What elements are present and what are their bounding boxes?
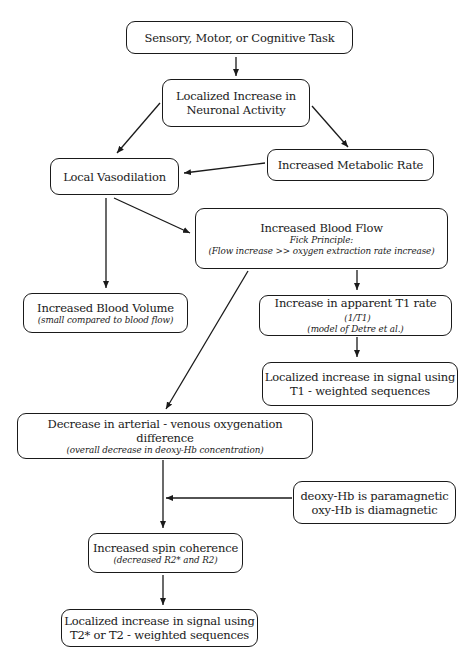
- node-spin-label: Increased spin coherence: [93, 541, 238, 555]
- node-bloodflow-sub2: (Flow increase >> oxygen extraction rate…: [208, 246, 434, 257]
- node-magnetic-line2: oxy-Hb is diamagnetic: [312, 503, 438, 517]
- node-neuronal-activity: Localized Increase in Neuronal Activity: [162, 79, 310, 127]
- node-task-label: Sensory, Motor, or Cognitive Task: [145, 31, 335, 45]
- node-bloodvolume-label: Increased Blood Volume: [37, 301, 174, 315]
- node-blood-flow: Increased Blood Flow Fick Principle: (Fl…: [195, 208, 448, 269]
- node-magnetic-properties: deoxy-Hb is paramagnetic oxy-Hb is diama…: [293, 481, 456, 524]
- node-vasodilation-label: Local Vasodilation: [63, 170, 166, 184]
- node-t1signal-line2: T1 - weighted sequences: [290, 384, 430, 398]
- node-metabolic-rate: Increased Metabolic Rate: [267, 149, 434, 181]
- node-t1rate-note: (1/T1): [344, 313, 370, 323]
- node-magnetic-line1: deoxy-Hb is paramagnetic: [300, 489, 448, 503]
- node-t2signal-line1: Localized increase in signal using: [64, 614, 254, 628]
- node-av-difference: Decrease in arterial - venous oxygenatio…: [17, 413, 313, 459]
- node-spin-coherence: Increased spin coherence (decreased R2* …: [88, 533, 243, 573]
- node-neuronal-line2: Neuronal Activity: [186, 103, 285, 117]
- node-blood-volume: Increased Blood Volume (small compared t…: [23, 293, 188, 333]
- node-metabolic-label: Increased Metabolic Rate: [278, 158, 423, 172]
- node-bloodflow-label: Increased Blood Flow: [260, 221, 383, 235]
- node-t2-signal: Localized increase in signal using T2* o…: [61, 609, 258, 647]
- node-avdiff-sub: (overall decrease in deoxy-Hb concentrat…: [66, 445, 263, 456]
- node-avdiff-label: Decrease in arterial - venous oxygenatio…: [18, 417, 312, 445]
- node-t1rate-label: Increase in apparent T1 rate (1/T1): [260, 296, 451, 324]
- node-t1-signal: Localized increase in signal using T1 - …: [262, 362, 458, 406]
- node-neuronal-line1: Localized Increase in: [176, 89, 296, 103]
- node-t1rate-sub: (model of Detre et al.): [307, 324, 403, 335]
- node-t1signal-line1: Localized increase in signal using: [265, 370, 455, 384]
- node-task: Sensory, Motor, or Cognitive Task: [126, 21, 353, 54]
- node-vasodilation: Local Vasodilation: [50, 158, 179, 195]
- node-t1rate-main: Increase in apparent T1 rate: [275, 296, 437, 310]
- node-bloodflow-sub1: Fick Principle:: [290, 235, 353, 246]
- node-spin-sub: (decreased R2* and R2): [113, 555, 217, 566]
- node-t2signal-line2: T2* or T2 - weighted sequences: [70, 628, 249, 642]
- node-bloodvolume-sub: (small compared to blood flow): [38, 315, 174, 326]
- node-t1-rate: Increase in apparent T1 rate (1/T1) (mod…: [259, 295, 452, 336]
